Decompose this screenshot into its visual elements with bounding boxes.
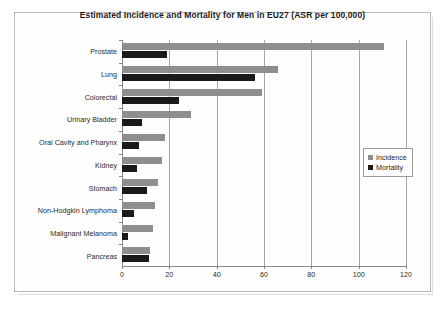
- legend-swatch-mortality-icon: [368, 165, 373, 170]
- x-tick-label-120: 120: [400, 270, 412, 279]
- y-axis-tick: [119, 40, 122, 41]
- x-tick-mark-20: [169, 265, 170, 269]
- chart-legend: Incidence Mortality: [363, 148, 413, 177]
- x-tick-mark-120: [406, 265, 407, 269]
- category-label: Pancreas: [87, 251, 117, 260]
- category-label: Urinary Bladder: [67, 115, 117, 124]
- bar-row: Urinary Bladder: [122, 108, 406, 131]
- x-axis-tick-labels: 020406080100120: [122, 270, 406, 284]
- bar-incidence: [122, 179, 158, 186]
- bar-incidence: [122, 202, 155, 209]
- category-label: Lung: [101, 70, 117, 79]
- category-label: Prostate: [90, 47, 117, 56]
- legend-item-incidence: Incidence: [368, 153, 407, 162]
- bar-incidence: [122, 225, 153, 232]
- chart-title: Estimated Incidence and Mortality for Me…: [0, 10, 445, 20]
- y-axis-tick: [119, 199, 122, 200]
- bar-mortality: [122, 74, 255, 81]
- x-tick-mark-0: [122, 265, 123, 269]
- y-axis-tick: [119, 244, 122, 245]
- bar-incidence: [122, 66, 278, 73]
- x-tick-label-60: 60: [260, 270, 268, 279]
- bar-incidence: [122, 89, 262, 96]
- bar-mortality: [122, 187, 147, 194]
- bar-row: Lung: [122, 63, 406, 86]
- bar-mortality: [122, 142, 139, 149]
- category-label: Oral Cavity and Pharynx: [39, 138, 117, 147]
- bar-mortality: [122, 233, 128, 240]
- bar-row: Prostate: [122, 40, 406, 63]
- legend-swatch-incidence-icon: [368, 155, 373, 160]
- bar-row: Malignant Melanoma: [122, 222, 406, 245]
- x-tick-label-40: 40: [213, 270, 221, 279]
- category-label: Kidney: [95, 160, 117, 169]
- bar-incidence: [122, 43, 384, 50]
- bar-incidence: [122, 157, 162, 164]
- y-axis-tick: [119, 222, 122, 223]
- x-tick-mark-40: [217, 265, 218, 269]
- legend-item-mortality: Mortality: [368, 163, 407, 172]
- y-axis-tick: [119, 85, 122, 86]
- x-tick-label-0: 0: [120, 270, 124, 279]
- y-axis-tick: [119, 131, 122, 132]
- bar-mortality: [122, 210, 134, 217]
- y-axis-tick: [119, 154, 122, 155]
- x-tick-label-20: 20: [165, 270, 173, 279]
- y-axis-tick: [119, 108, 122, 109]
- category-label: Non-Hodgkin Lymphoma: [38, 206, 117, 215]
- legend-label-incidence: Incidence: [376, 153, 407, 162]
- bar-row: Pancreas: [122, 244, 406, 267]
- category-label: Stomach: [89, 183, 117, 192]
- legend-label-mortality: Mortality: [376, 163, 403, 172]
- bar-mortality: [122, 51, 167, 58]
- bar-incidence: [122, 111, 191, 118]
- x-tick-mark-80: [311, 265, 312, 269]
- y-axis-tick: [119, 63, 122, 64]
- category-label: Colorectal: [85, 92, 117, 101]
- category-label: Malignant Melanoma: [50, 228, 117, 237]
- bar-mortality: [122, 97, 179, 104]
- x-tick-label-80: 80: [307, 270, 315, 279]
- bar-row: Colorectal: [122, 85, 406, 108]
- y-axis-tick: [119, 176, 122, 177]
- bar-mortality: [122, 165, 137, 172]
- bar-mortality: [122, 255, 149, 262]
- bar-row: Non-Hodgkin Lymphoma: [122, 199, 406, 222]
- bar-row: Stomach: [122, 176, 406, 199]
- bar-incidence: [122, 134, 165, 141]
- bar-mortality: [122, 119, 142, 126]
- x-tick-label-100: 100: [353, 270, 365, 279]
- x-tick-mark-60: [264, 265, 265, 269]
- bar-incidence: [122, 247, 150, 254]
- x-tick-mark-100: [359, 265, 360, 269]
